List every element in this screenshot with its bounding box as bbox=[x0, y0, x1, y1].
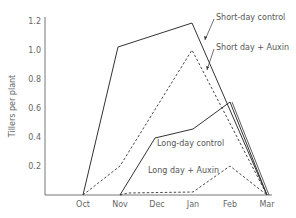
label-short-day-control: Short-day control bbox=[216, 13, 285, 22]
y-axis-label: Tillers per plant bbox=[8, 75, 17, 138]
x-tick: Mar bbox=[259, 200, 275, 209]
y-tick: 1.2 bbox=[28, 17, 41, 26]
y-tick: 0.6 bbox=[28, 104, 41, 113]
series-long-day-control bbox=[120, 102, 267, 195]
series-long-day-control-double bbox=[232, 102, 269, 195]
label-long-day-auxin: Long day + Auxin bbox=[148, 166, 219, 175]
x-tick: Feb bbox=[223, 200, 237, 209]
y-tick: 1.0 bbox=[28, 46, 41, 55]
label-long-day-control: Long-day control bbox=[157, 139, 224, 148]
y-tick: 0.8 bbox=[28, 75, 41, 84]
x-tick: Oct bbox=[76, 200, 90, 209]
y-tick: 0.2 bbox=[28, 162, 41, 171]
x-tick: Nov bbox=[112, 200, 128, 209]
x-tick: Dec bbox=[149, 200, 164, 209]
label-short-day-auxin: Short day + Auxin bbox=[216, 43, 289, 52]
y-tick: 0.4 bbox=[28, 133, 41, 142]
x-tick: Jan bbox=[186, 200, 199, 209]
tillers-chart: 0.2 0.4 0.6 0.8 1.0 1.2 Tillers per plan… bbox=[0, 0, 296, 218]
